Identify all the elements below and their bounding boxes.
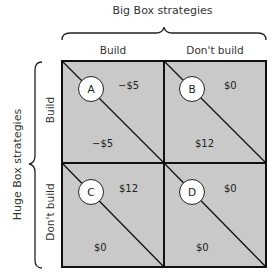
- outcome-node-b: B: [179, 76, 205, 102]
- outcome-node-c: C: [78, 179, 104, 205]
- left-brace: [29, 62, 42, 268]
- column-label-dont-build: Don't build: [164, 44, 266, 56]
- row-label-dont-build: Don't build: [44, 161, 56, 263]
- payoff-huge-box-a: −$5: [92, 138, 113, 149]
- outcome-node-a: A: [78, 76, 104, 102]
- payoff-big-box-a: −$5: [118, 80, 139, 91]
- payoff-big-box-b: $0: [224, 80, 237, 91]
- top-brace: [62, 27, 266, 40]
- outcome-node-d: D: [179, 179, 205, 205]
- matrix-graphic: [0, 0, 280, 278]
- row-label-build: Build: [44, 59, 56, 161]
- payoff-big-box-d: $0: [224, 183, 237, 194]
- payoff-huge-box-c: $0: [94, 242, 107, 253]
- payoff-huge-box-b: $12: [195, 138, 214, 149]
- column-label-build: Build: [62, 44, 164, 56]
- payoff-huge-box-d: $0: [196, 242, 209, 253]
- payoff-big-box-c: $12: [119, 183, 138, 194]
- huge-box-strategies-title: Huge Box strategies: [11, 61, 24, 269]
